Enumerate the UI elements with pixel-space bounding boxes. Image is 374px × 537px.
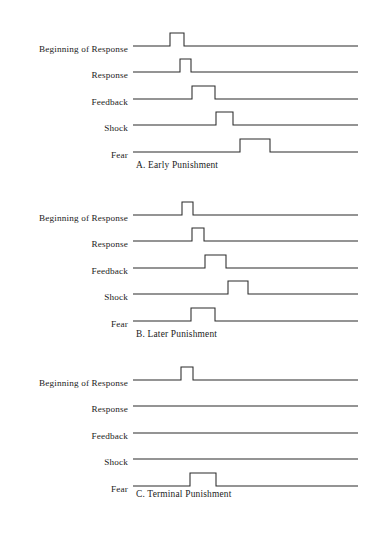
panel-caption-a: A. Early Punishment <box>136 160 218 171</box>
trace-line <box>133 308 358 321</box>
channel-trace <box>0 24 374 50</box>
channel-trace <box>0 130 374 156</box>
channel-trace <box>0 272 374 298</box>
trace-line <box>133 473 358 486</box>
channel-trace <box>0 411 374 437</box>
trace-line <box>133 228 358 241</box>
channel-row: Response <box>0 384 374 410</box>
panel-c: Beginning of ResponseResponseFeedbackSho… <box>0 358 374 508</box>
trace-line <box>133 139 358 152</box>
channel-row: Fear <box>0 299 374 325</box>
trace-line <box>133 86 358 99</box>
trace-line <box>133 33 358 46</box>
channel-row: Beginning of Response <box>0 358 374 384</box>
panel-b: Beginning of ResponseResponseFeedbackSho… <box>0 193 374 343</box>
channel-trace <box>0 77 374 103</box>
panel-a: Beginning of ResponseResponseFeedbackSho… <box>0 24 374 174</box>
trace-line <box>133 59 358 72</box>
channel-row: Shock <box>0 103 374 129</box>
channel-trace <box>0 464 374 490</box>
panel-caption-c: C. Terminal Punishment <box>136 489 232 500</box>
channel-row: Feedback <box>0 411 374 437</box>
channel-row: Fear <box>0 464 374 490</box>
trace-line <box>133 281 358 294</box>
channel-row: Fear <box>0 130 374 156</box>
channel-row: Response <box>0 50 374 76</box>
channel-trace <box>0 246 374 272</box>
channel-trace <box>0 299 374 325</box>
channel-row: Feedback <box>0 246 374 272</box>
channel-trace <box>0 358 374 384</box>
channel-trace <box>0 50 374 76</box>
channel-trace <box>0 437 374 463</box>
channel-row: Feedback <box>0 77 374 103</box>
channel-row: Shock <box>0 437 374 463</box>
channel-trace <box>0 193 374 219</box>
timing-diagram-figure: Beginning of ResponseResponseFeedbackSho… <box>0 0 374 537</box>
channel-row: Shock <box>0 272 374 298</box>
trace-line <box>133 112 358 125</box>
channel-trace <box>0 219 374 245</box>
trace-line <box>133 367 358 380</box>
trace-line <box>133 202 358 215</box>
panel-caption-b: B. Later Punishment <box>136 329 217 340</box>
channel-row: Beginning of Response <box>0 193 374 219</box>
trace-line <box>133 255 358 268</box>
channel-trace <box>0 103 374 129</box>
channel-row: Response <box>0 219 374 245</box>
channel-trace <box>0 384 374 410</box>
channel-row: Beginning of Response <box>0 24 374 50</box>
